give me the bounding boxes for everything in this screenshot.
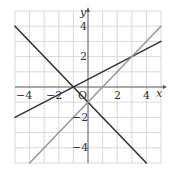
tick-x-minus-4: −4 [16,89,32,102]
axes [15,9,163,163]
tick-y-minus-4: −4 [72,141,88,154]
y-axis-arrow-icon [86,7,90,12]
coordinate-graph: x y O −4 −2 2 4 4 2 −2 −4 [0,0,171,173]
tick-y-minus-2: −2 [72,111,88,124]
tick-y-2: 2 [80,50,87,63]
y-axis-label: y [79,6,87,19]
x-axis-arrow-icon [163,85,167,89]
tick-x-4: 4 [143,89,150,102]
tick-y-4: 4 [80,20,87,33]
origin-label: O [78,89,87,102]
tick-x-2: 2 [114,89,121,102]
tick-x-minus-2: −2 [46,89,62,102]
x-axis-label: x [156,87,163,100]
